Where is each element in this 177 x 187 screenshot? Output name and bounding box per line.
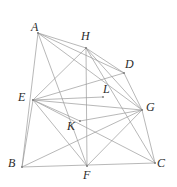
point-label-b: B [8,157,15,169]
vertex-dot-k [79,120,81,122]
segment-e-k [33,100,80,121]
segment-d-g [124,73,142,110]
point-label-l: L [103,83,110,95]
segment-e-f [33,100,87,166]
point-label-c: C [157,157,165,169]
vertex-dot-d [123,72,125,74]
point-label-g: G [146,101,155,113]
segment-g-b [22,110,142,167]
point-label-f: F [83,169,90,181]
point-label-d: D [125,58,134,70]
point-label-a: A [31,21,38,33]
vertex-dot-c [154,162,156,164]
point-label-k: K [67,120,75,132]
edges-group [22,33,155,167]
vertex-dot-b [21,166,23,168]
vertex-dot-f [86,165,88,167]
segment-h-f [86,48,87,166]
segment-g-c [142,110,155,163]
segment-a-g [38,33,142,110]
segment-e-b [22,100,33,167]
vertex-dot-l [102,96,104,98]
vertex-dot-g [141,109,143,111]
point-label-e: E [18,91,25,103]
segment-a-h [38,33,86,48]
geometry-figure: AHDELGKBFC [0,0,177,187]
segment-b-c [22,163,155,167]
vertex-dot-h [85,47,87,49]
vertex-dot-e [32,99,34,101]
segment-e-l [33,97,103,100]
point-label-h: H [81,30,90,42]
